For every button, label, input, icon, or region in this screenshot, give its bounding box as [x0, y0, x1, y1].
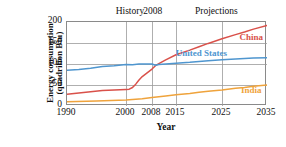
- x-axis-tick-2025: 2025: [212, 108, 231, 118]
- y-axis-tick-100: 100: [36, 58, 62, 68]
- y-axis-tick-labels: 050100150200: [34, 21, 62, 105]
- plot-area: ChinaUnited StatesIndia: [66, 21, 266, 105]
- series-label-india: India: [241, 86, 262, 95]
- chart-annotations: History2008Projections: [66, 7, 266, 20]
- y-axis-tick-150: 150: [36, 37, 62, 47]
- plot-svg: [67, 22, 267, 106]
- annotation-projections: Projections: [195, 7, 238, 17]
- x-axis-tick-labels: 199020002008201520252035: [66, 108, 266, 122]
- annotation-history: History: [116, 7, 145, 17]
- annotation-2008: 2008: [143, 7, 162, 17]
- series-label-china: China: [239, 33, 263, 42]
- series-line-china: [67, 25, 267, 94]
- x-axis-tick-2035: 2035: [257, 108, 276, 118]
- x-axis-tick-1990: 1990: [57, 108, 76, 118]
- y-axis-tick-50: 50: [36, 79, 62, 89]
- x-axis-tick-2008: 2008: [142, 108, 161, 118]
- series-line-india: [67, 85, 267, 102]
- energy-consumption-line-chart: Energy consumption (quadrilion Btu) Hist…: [0, 0, 286, 147]
- y-axis-tick-200: 200: [36, 16, 62, 26]
- x-axis-title: Year: [66, 122, 266, 132]
- series-label-united-states: United States: [176, 49, 227, 58]
- x-axis-tick-2015: 2015: [166, 108, 185, 118]
- x-axis-tick-2000: 2000: [116, 108, 135, 118]
